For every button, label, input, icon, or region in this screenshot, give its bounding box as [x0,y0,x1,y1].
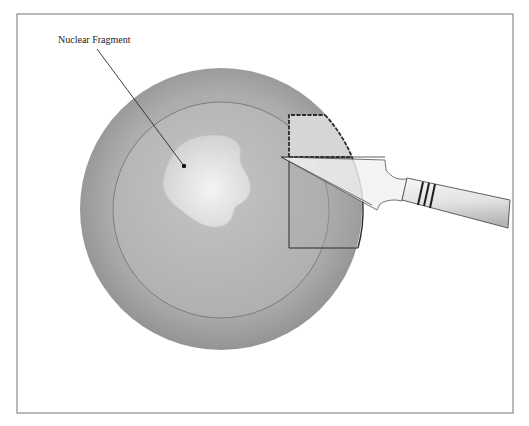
leader-dot [182,164,186,168]
diagram-canvas: Nuclear Fragment [0,0,529,426]
nuclear-fragment-label: Nuclear Fragment [58,34,131,45]
